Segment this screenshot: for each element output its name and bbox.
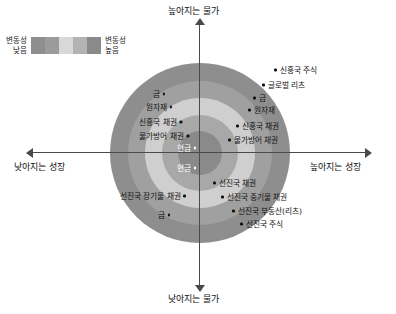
data-point-label: 선진국 주식 [240, 220, 283, 229]
data-point-label: 금 [253, 94, 266, 103]
data-point-text: 원자재 [254, 106, 275, 115]
axis-label-bottom: 낮아지는 물가 [168, 292, 219, 305]
data-point-label: 글로벌 리츠 [262, 81, 305, 90]
data-point-marker-icon [253, 97, 256, 100]
data-point-text: 물가방어 채권 [139, 132, 183, 141]
data-point-text: 금 [158, 211, 165, 220]
data-point-text: 신흥국 주식 [280, 66, 317, 75]
data-point-label: 신흥국 채권 [139, 118, 182, 127]
legend-high-label: 변동성 높음 [105, 36, 126, 55]
data-point-marker-icon [240, 223, 243, 226]
data-point-text: 글로벌 리츠 [268, 81, 305, 90]
data-point-marker-icon [193, 167, 196, 170]
data-point-marker-icon [232, 210, 235, 213]
data-point-label: 신흥국 채권 [236, 122, 279, 131]
data-point-text: 선진국 중기물 채권 [227, 193, 288, 202]
axis-label-right: 높아지는 성장 [310, 160, 361, 173]
data-point-text: 원자재 [146, 103, 167, 112]
chart-canvas: 변동성 낮음 변동성 높음 높아지는 물가 낮아지는 물가 낮아지는 성장 높아… [0, 0, 396, 314]
data-point-label: 현금 [177, 144, 196, 153]
data-point-text: 현금 [177, 164, 191, 173]
data-point-text: 물가방어 채권 [234, 136, 278, 145]
data-point-label: 선진국 장기물 채권 [120, 192, 186, 201]
data-point-label: 선진국 부동산(리츠) [232, 207, 302, 216]
axis-label-top: 높아지는 물가 [168, 4, 219, 17]
legend-gradient-bar [31, 37, 101, 54]
data-point-marker-icon [248, 109, 251, 112]
data-point-label: 금 [158, 211, 170, 220]
data-point-label: 선진국 채권 [213, 179, 256, 188]
data-point-text: 신흥국 채권 [242, 122, 279, 131]
data-point-text: 금 [259, 94, 266, 103]
data-point-marker-icon [167, 214, 170, 217]
legend-band-4 [73, 37, 87, 54]
data-point-marker-icon [274, 69, 277, 72]
data-point-marker-icon [193, 147, 196, 150]
data-point-text: 선진국 부동산(리츠) [238, 207, 302, 216]
data-point-text: 선진국 채권 [219, 179, 256, 188]
axis-label-left: 낮아지는 성장 [14, 160, 65, 173]
data-point-label: 금 [153, 90, 165, 99]
data-point-text: 선진국 주식 [246, 220, 283, 229]
data-point-label: 원자재 [146, 103, 172, 112]
data-point-text: 신흥국 채권 [139, 118, 176, 127]
data-point-marker-icon [179, 121, 182, 124]
volatility-rings [110, 63, 290, 243]
axis-arrow-up-icon [195, 18, 205, 25]
data-point-text: 선진국 장기물 채권 [120, 192, 181, 201]
data-point-label: 신흥국 주식 [274, 66, 317, 75]
data-point-label: 현금 [177, 164, 196, 173]
data-point-marker-icon [262, 84, 265, 87]
data-point-marker-icon [169, 106, 172, 109]
data-point-marker-icon [183, 195, 186, 198]
data-point-marker-icon [162, 93, 165, 96]
data-point-label: 선진국 중기물 채권 [221, 193, 287, 202]
growth-axis [32, 152, 366, 153]
data-point-marker-icon [186, 135, 189, 138]
data-point-marker-icon [213, 182, 216, 185]
data-point-marker-icon [236, 125, 239, 128]
data-point-label: 물가방어 채권 [228, 136, 278, 145]
axis-arrow-right-icon [365, 148, 372, 158]
legend-band-5 [87, 37, 101, 54]
legend-band-3 [59, 37, 73, 54]
data-point-label: 원자재 [248, 106, 275, 115]
inflation-axis [199, 24, 200, 286]
axis-arrow-down-icon [195, 285, 205, 292]
data-point-text: 금 [153, 90, 160, 99]
data-point-marker-icon [228, 139, 231, 142]
legend-band-1 [31, 37, 45, 54]
legend-low-label: 변동성 낮음 [6, 36, 27, 55]
data-point-text: 현금 [177, 144, 191, 153]
data-point-marker-icon [221, 196, 224, 199]
axis-arrow-left-icon [26, 148, 33, 158]
volatility-legend: 변동성 낮음 변동성 높음 [6, 36, 126, 55]
legend-band-2 [45, 37, 59, 54]
data-point-label: 물가방어 채권 [139, 132, 189, 141]
